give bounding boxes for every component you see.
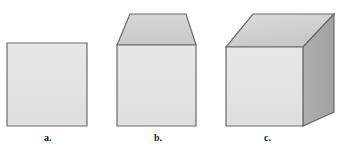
- shape-b-front-face: [117, 45, 196, 126]
- shape-c-front-face: [226, 47, 303, 126]
- shape-b-label: b.: [154, 133, 162, 143]
- shape-a-label: a.: [44, 133, 52, 143]
- shape-b-top-face: [117, 14, 196, 45]
- shapes-illustration: [0, 0, 348, 152]
- shape-c-group: [226, 14, 334, 126]
- figure-container: a. b. c.: [0, 0, 348, 152]
- shape-b-group: [117, 14, 196, 126]
- shape-c-label: c.: [264, 133, 271, 143]
- shape-a-front-face: [7, 43, 87, 126]
- shape-a-group: [7, 43, 87, 126]
